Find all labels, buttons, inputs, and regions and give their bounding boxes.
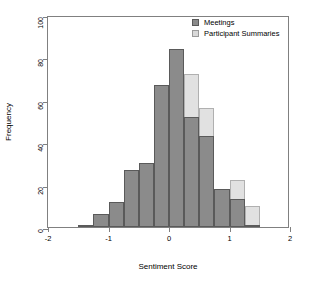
histogram-bar [109, 202, 124, 227]
histogram-bar [230, 199, 245, 227]
x-axis-tick-label: 1 [227, 234, 231, 243]
x-axis-tick [169, 227, 170, 232]
histogram-bar [199, 136, 214, 227]
histogram-bar [124, 170, 139, 227]
y-axis-tick-label: 0 [38, 229, 45, 233]
legend-swatch-icon [192, 30, 199, 37]
histogram-bar [245, 206, 260, 227]
legend-label: Participant Summaries [204, 28, 279, 39]
legend-item: Meetings [192, 17, 279, 28]
x-axis-tick-label: -2 [45, 234, 52, 243]
y-axis-label: Frequency [4, 103, 13, 141]
x-axis-label: Sentiment Score [47, 262, 289, 271]
histogram-bar [154, 85, 169, 227]
histogram-bar [184, 117, 199, 227]
y-axis-tick-label: 60 [38, 102, 45, 110]
x-axis-tick-label: -1 [105, 234, 112, 243]
x-axis-tick-label: 2 [288, 234, 292, 243]
histogram-bar [93, 214, 108, 227]
x-axis-tick [48, 227, 49, 232]
plot-box: 020406080100-2-1012 [47, 16, 289, 228]
histogram-bar [78, 225, 93, 227]
legend: MeetingsParticipant Summaries [192, 17, 279, 39]
legend-item: Participant Summaries [192, 28, 279, 39]
y-axis-tick-label: 40 [38, 144, 45, 152]
x-axis-tick [290, 227, 291, 232]
legend-swatch-icon [192, 19, 199, 26]
x-axis-tick-label: 0 [167, 234, 171, 243]
legend-label: Meetings [204, 17, 234, 28]
x-axis-tick [109, 227, 110, 232]
histogram-bar [214, 189, 229, 227]
y-axis-tick-label: 80 [38, 59, 45, 67]
histogram-bar [245, 225, 260, 227]
y-axis-tick-label: 20 [38, 187, 45, 195]
histogram-bar [169, 49, 184, 227]
histogram-figure: 020406080100-2-1012 Sentiment Score Freq… [0, 0, 312, 285]
y-axis-tick-label: 100 [38, 17, 45, 29]
plot-data-area [48, 17, 288, 227]
x-axis-tick [230, 227, 231, 232]
histogram-bar [139, 163, 154, 227]
